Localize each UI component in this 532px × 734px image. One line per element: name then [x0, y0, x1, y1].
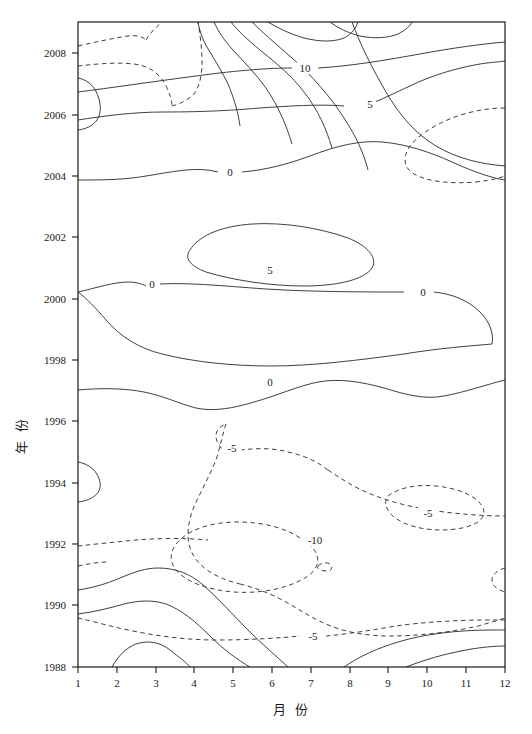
x-tick-label: 9	[385, 677, 391, 689]
x-tick-label: 4	[191, 677, 197, 689]
x-axis-title: 月 份	[273, 702, 311, 717]
y-tick-label: 2002	[44, 231, 66, 243]
contour-label-group: 0	[224, 166, 236, 178]
contour-label: 0	[420, 286, 426, 298]
y-tick-label: 2006	[44, 109, 67, 121]
contour-label-group: -10	[301, 534, 328, 546]
x-tick-label: 6	[269, 677, 275, 689]
contour-label-group: 0	[264, 376, 276, 388]
contour-label: 10	[300, 62, 312, 74]
y-tick-label: 2000	[44, 293, 67, 305]
y-tick-label: 2008	[44, 47, 67, 59]
contour-label-group: -5	[303, 630, 323, 642]
contour-plot-figure: 10 5 0 5 0 0 0	[0, 0, 532, 734]
contour-label: 0	[267, 376, 273, 388]
contour-label-group: 0	[146, 278, 158, 290]
contour-label: -5	[227, 442, 237, 454]
x-tick-label: 12	[500, 677, 511, 689]
x-tick-label: 3	[153, 677, 159, 689]
contour-label: 5	[367, 98, 373, 110]
y-tick-label: 1998	[44, 354, 67, 366]
x-tick-label: 8	[347, 677, 353, 689]
x-tick-label: 10	[422, 677, 434, 689]
contour-label-group: 5	[364, 98, 376, 110]
y-tick-label: 1996	[44, 415, 67, 427]
contour-label: -5	[423, 507, 433, 519]
contour-label-group: -5	[222, 442, 242, 454]
y-tick-label: 1988	[44, 661, 67, 673]
x-tick-label: 5	[230, 677, 236, 689]
y-tick-label: 1992	[44, 538, 66, 550]
x-tick-label: 11	[461, 677, 472, 689]
contour-label: 0	[227, 166, 233, 178]
y-axis-title: 年 份	[14, 416, 29, 454]
contour-label: 0	[149, 278, 155, 290]
y-tick-label: 2004	[44, 170, 67, 182]
contour-label-group: 0	[417, 286, 429, 298]
y-tick-label: 1990	[44, 599, 67, 611]
contour-label: -5	[308, 630, 318, 642]
y-tick-label: 1994	[44, 477, 67, 489]
contour-label: -10	[308, 534, 323, 546]
figure-background	[0, 0, 532, 734]
x-tick-label: 7	[308, 677, 314, 689]
x-tick-label: 2	[114, 677, 120, 689]
contour-label-group: -5	[418, 507, 438, 519]
contour-label-group: 5	[264, 264, 276, 276]
contour-label: 5	[267, 264, 273, 276]
contour-plot-svg: 10 5 0 5 0 0 0	[0, 0, 532, 734]
contour-label-group: 10	[297, 62, 314, 74]
x-tick-label: 1	[75, 677, 81, 689]
